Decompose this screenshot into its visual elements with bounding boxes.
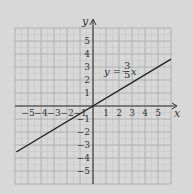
x-tick-label: 1: [103, 108, 109, 118]
y-tick-label: 5: [84, 36, 90, 46]
y-tick-label: −5: [77, 166, 91, 176]
coordinate-plane: −5−4−3−2−11234554321−1−2−3−4−5 x y y = 3…: [0, 0, 193, 194]
x-tick-label: −5: [21, 108, 35, 118]
y-tick-label: −2: [77, 127, 90, 137]
x-tick-label: −3: [47, 108, 61, 118]
y-tick-label: 3: [84, 62, 90, 72]
equation-variable: x: [131, 66, 137, 77]
axes: [15, 19, 177, 184]
equation-lhs: y =: [103, 66, 121, 77]
y-tick-label: −3: [77, 140, 91, 150]
y-tick-label: 2: [84, 75, 90, 85]
x-tick-label: 4: [142, 108, 148, 118]
x-tick-label: 3: [129, 108, 135, 118]
y-tick-label: −4: [77, 153, 91, 163]
x-tick-label: −2: [60, 108, 73, 118]
y-tick-label: 4: [84, 49, 90, 59]
y-tick-label: 1: [84, 88, 90, 98]
x-axis-label: x: [174, 107, 181, 120]
x-tick-label: 5: [155, 108, 161, 118]
x-tick-label: −4: [34, 108, 48, 118]
x-tick-label: 2: [116, 108, 122, 118]
equation-denominator: 5: [124, 69, 130, 80]
y-axis-label: y: [81, 15, 89, 28]
y-tick-label: −1: [77, 114, 90, 124]
